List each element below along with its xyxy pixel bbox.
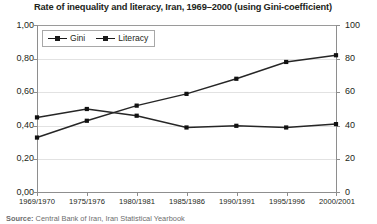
data-point xyxy=(85,119,89,123)
data-point xyxy=(184,125,188,129)
data-point xyxy=(85,107,89,111)
data-point xyxy=(234,77,238,81)
y-axis-right-tick-label: 20 xyxy=(345,154,375,163)
y-axis-right-tick-label: 0 xyxy=(345,188,375,197)
chart-figure: Rate of inequality and literacy, Iran, 1… xyxy=(0,0,377,224)
y-axis-right-tick-label: 40 xyxy=(345,121,375,130)
chart-title: Rate of inequality and literacy, Iran, 1… xyxy=(34,2,374,12)
x-axis-tick-label: 2000/2001 xyxy=(305,198,369,206)
source-note-text: Central Bank of Iran, Iran Statistical Y… xyxy=(34,214,185,223)
data-point xyxy=(334,53,338,57)
y-axis-right-tick-label: 60 xyxy=(345,87,375,96)
y-axis-left-tick-label: 0,20 xyxy=(2,154,34,163)
y-axis-right-tick-label: 100 xyxy=(345,21,375,30)
y-axis-right-tick-label: 80 xyxy=(345,54,375,63)
data-point xyxy=(35,115,39,119)
data-point xyxy=(35,135,39,139)
data-point xyxy=(284,60,288,64)
data-point xyxy=(184,92,188,96)
data-point xyxy=(284,125,288,129)
legend-label: Literacy xyxy=(118,33,148,43)
y-axis-left-tick-label: 0,00 xyxy=(2,188,34,197)
y-axis-left-tick-label: 0,80 xyxy=(2,54,34,63)
y-axis-left-tick-label: 0,60 xyxy=(2,87,34,96)
data-point xyxy=(234,124,238,128)
legend-entry-literacy[interactable]: Literacy xyxy=(96,33,148,43)
source-note: Source: Central Bank of Iran, Iran Stati… xyxy=(6,214,376,223)
line-marker-icon xyxy=(96,34,115,42)
y-axis-left-tick-label: 0,40 xyxy=(2,121,34,130)
series-line-literacy xyxy=(37,55,336,137)
source-note-label: Source: xyxy=(6,214,34,223)
series-plot xyxy=(37,25,337,193)
data-point xyxy=(334,122,338,126)
line-marker-icon xyxy=(48,34,67,42)
data-point xyxy=(135,104,139,108)
y-axis-left-tick-label: 1,00 xyxy=(2,21,34,30)
legend-entry-gini[interactable]: Gini xyxy=(48,33,85,43)
data-point xyxy=(135,114,139,118)
chart-legend: Gini Literacy xyxy=(42,30,155,47)
legend-label: Gini xyxy=(70,33,85,43)
plot-area xyxy=(37,25,337,193)
series-line-gini xyxy=(37,109,336,127)
